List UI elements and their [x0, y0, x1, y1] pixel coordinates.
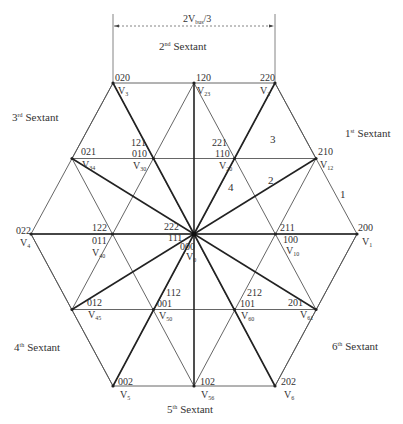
region-1-label: 1 [340, 188, 346, 200]
region-4-label: 4 [228, 181, 234, 193]
sextant-2-label: 2ndSextant [159, 40, 207, 52]
voltage-vectors [31, 83, 357, 386]
svg-text:200: 200 [358, 222, 373, 233]
dimension-label: 2Vbus/3 [183, 13, 211, 25]
svg-text:002: 002 [118, 376, 133, 387]
svg-text:122: 122 [92, 222, 107, 233]
svg-text:V12: V12 [320, 159, 333, 171]
svg-text:V50: V50 [159, 310, 172, 322]
svg-text:222: 222 [164, 221, 179, 232]
svg-text:V5: V5 [120, 389, 130, 401]
svg-text:221: 221 [212, 137, 227, 148]
svg-text:020: 020 [115, 72, 130, 83]
svg-text:V60: V60 [241, 310, 254, 322]
sextant-1-label: 1stSextant [345, 127, 391, 139]
svg-text:001: 001 [157, 298, 172, 309]
svg-text:011: 011 [92, 235, 107, 246]
svg-text:V56: V56 [201, 389, 214, 401]
svg-text:V34: V34 [82, 159, 95, 171]
region-3-label: 3 [270, 133, 276, 145]
svg-text:021: 021 [81, 146, 96, 157]
sextant-5-label: 5thSextant [167, 403, 213, 415]
svg-text:201: 201 [288, 297, 303, 308]
svg-text:V20: V20 [219, 160, 232, 172]
svg-text:202: 202 [281, 376, 296, 387]
svg-text:V23: V23 [197, 85, 210, 97]
sextant-3-label: 3rdSextant [12, 111, 59, 123]
svg-text:V40: V40 [92, 247, 105, 259]
svg-text:V61: V61 [300, 309, 313, 321]
space-vector-diagram: 2Vbus/3 [0, 0, 403, 424]
svg-text:V45: V45 [88, 309, 101, 321]
svg-text:120: 120 [196, 72, 211, 83]
svg-text:010: 010 [132, 148, 147, 159]
svg-text:220: 220 [260, 72, 275, 83]
sextant-4-label: 4thSextant [14, 341, 60, 353]
svg-text:102: 102 [200, 376, 215, 387]
svg-text:V3: V3 [118, 85, 128, 97]
svg-text:V1: V1 [362, 236, 372, 248]
svg-text:V6: V6 [284, 389, 294, 401]
region-2-label: 2 [268, 174, 274, 186]
svg-text:100: 100 [283, 234, 298, 245]
svg-text:V2: V2 [260, 85, 270, 97]
svg-text:112: 112 [166, 287, 181, 298]
svg-text:212: 212 [247, 287, 262, 298]
sextant-6-label: 6thSextant [332, 340, 378, 352]
svg-text:022: 022 [16, 225, 31, 236]
svg-text:V10: V10 [286, 245, 299, 257]
svg-text:V4: V4 [20, 237, 30, 249]
svg-text:121: 121 [131, 137, 146, 148]
svg-text:012: 012 [87, 297, 102, 308]
svg-text:V30: V30 [133, 160, 146, 172]
svg-text:211: 211 [280, 222, 295, 233]
svg-text:210: 210 [318, 146, 333, 157]
svg-text:110: 110 [215, 148, 230, 159]
svg-text:101: 101 [240, 298, 255, 309]
